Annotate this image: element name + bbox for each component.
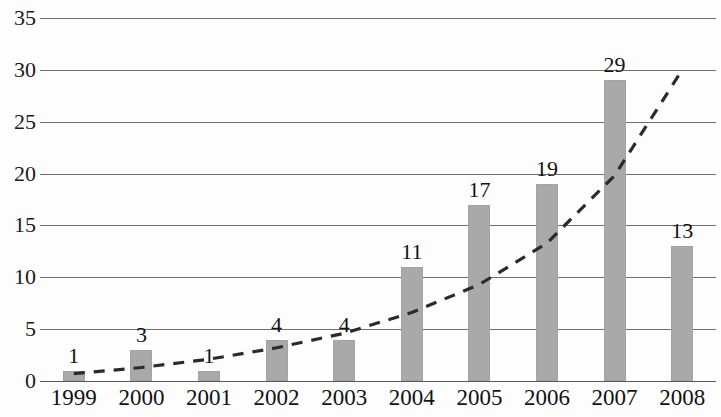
bar[interactable]	[266, 340, 288, 381]
x-axis-tick-label: 2008	[659, 386, 705, 409]
y-axis-tick-label: 25	[2, 111, 36, 133]
bar[interactable]	[198, 371, 220, 381]
y-axis-tick-label: 5	[2, 318, 36, 340]
y-axis-tick-label: 10	[2, 266, 36, 288]
x-axis-tick-label: 2006	[524, 386, 570, 409]
x-axis-tick-label: 2000	[118, 386, 164, 409]
x-axis-tick-label: 2002	[254, 386, 300, 409]
x-axis-tick-label: 2005	[456, 386, 502, 409]
bar-value-label: 4	[339, 314, 350, 336]
x-axis-tick-label: 2003	[321, 386, 367, 409]
bar[interactable]	[130, 350, 152, 381]
bar[interactable]	[63, 371, 85, 381]
bar[interactable]	[671, 246, 693, 381]
bar[interactable]	[333, 340, 355, 381]
y-axis-tick-label: 20	[2, 163, 36, 185]
y-axis-tick-label: 30	[2, 59, 36, 81]
gridline-35	[40, 18, 716, 19]
x-axis-tick-label: 1999	[51, 386, 97, 409]
y-axis-tick-label: 35	[2, 7, 36, 29]
gridline-0	[40, 381, 716, 382]
bar-value-label: 17	[468, 179, 490, 201]
bar-value-label: 11	[401, 241, 422, 263]
bar[interactable]	[604, 80, 626, 381]
bar-value-label: 19	[536, 158, 558, 180]
bar-value-label: 4	[271, 314, 282, 336]
y-axis: 05101520253035	[0, 18, 36, 381]
x-axis-tick-label: 2004	[389, 386, 435, 409]
bar-value-label: 29	[604, 54, 626, 76]
bar-value-label: 1	[68, 345, 79, 367]
bar-value-label: 3	[136, 324, 147, 346]
bar[interactable]	[401, 267, 423, 381]
y-axis-tick-label: 15	[2, 214, 36, 236]
x-axis-tick-label: 2001	[186, 386, 232, 409]
x-axis-tick-label: 2007	[592, 386, 638, 409]
plot-area: 131441117192913	[40, 18, 716, 381]
bar[interactable]	[536, 184, 558, 381]
y-axis-tick-label: 0	[2, 370, 36, 392]
bar-value-label: 1	[204, 345, 215, 367]
bar[interactable]	[468, 205, 490, 381]
bar-value-label: 13	[671, 220, 693, 242]
bar-chart: 05101520253035 131441117192913 199920002…	[0, 0, 721, 417]
